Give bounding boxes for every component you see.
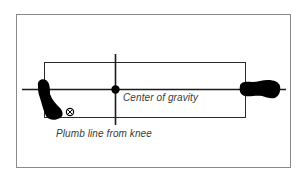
center-of-gravity-label: Center of gravity [123,92,198,103]
right-footprint-icon [240,80,281,98]
stance-diagram: Center of gravity Plumb line from knee [0,0,305,179]
plumb-line-label: Plumb line from knee [56,128,152,139]
left-footprint-icon [38,79,63,119]
center-of-gravity-dot [111,85,119,93]
plumb-line-marker-icon [66,108,73,115]
